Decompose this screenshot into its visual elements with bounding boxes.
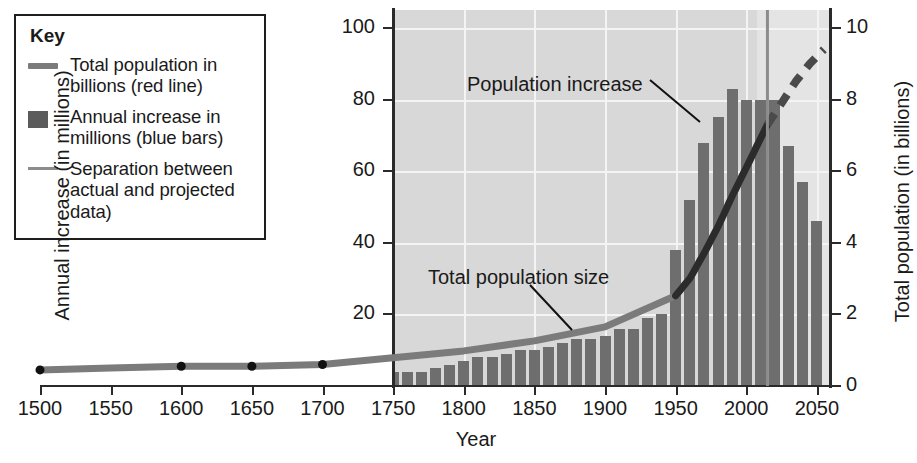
left-axis-tick <box>383 27 392 29</box>
x-axis-tick <box>393 386 395 395</box>
left-axis-tick <box>383 313 392 315</box>
left-axis-tick-label: 100 <box>305 15 375 38</box>
x-axis-tick <box>252 386 254 395</box>
x-axis-tick <box>817 386 819 395</box>
left-axis-tick-label: 20 <box>305 301 375 324</box>
bar <box>557 343 568 386</box>
x-axis-tick-label: 1750 <box>358 397 428 420</box>
x-axis-tick-label: 2000 <box>711 397 781 420</box>
right-axis-tick-label: 10 <box>846 15 906 38</box>
bar <box>600 336 611 386</box>
data-point-marker <box>36 365 45 374</box>
legend-item-label: Annual increase in millions (blue bars) <box>70 106 254 149</box>
x-axis-tick-label: 1550 <box>76 397 146 420</box>
x-axis-tick-label: 1850 <box>499 397 569 420</box>
x-axis-tick <box>534 386 536 395</box>
bar <box>741 100 752 386</box>
gridline-vertical <box>605 10 607 386</box>
bar <box>571 339 582 386</box>
x-axis-tick-label: 1700 <box>288 397 358 420</box>
right-axis-tick <box>832 242 841 244</box>
bar <box>769 100 780 386</box>
x-axis-tick <box>464 386 466 395</box>
x-axis-tick-label: 1950 <box>641 397 711 420</box>
left-axis-title: Annual increase (in millions) <box>51 46 74 346</box>
left-axis-tick-label: 40 <box>305 230 375 253</box>
bar <box>402 372 413 386</box>
bar <box>515 350 526 386</box>
data-point-marker <box>318 360 327 369</box>
bar <box>501 354 512 386</box>
bar <box>783 146 794 386</box>
bottom-axis-line <box>40 385 831 387</box>
x-axis-tick <box>111 386 113 395</box>
x-axis-tick <box>676 386 678 395</box>
bar <box>444 365 455 386</box>
bar <box>585 339 596 386</box>
data-point-marker <box>177 362 186 371</box>
bar <box>430 368 441 386</box>
bar <box>656 314 667 386</box>
bar <box>811 221 822 386</box>
bar <box>487 357 498 386</box>
left-axis-tick <box>383 170 392 172</box>
bar <box>642 318 653 386</box>
right-axis-tick <box>832 170 841 172</box>
right-axis-tick <box>832 313 841 315</box>
bar <box>684 200 695 386</box>
x-axis-tick-label: 2050 <box>782 397 852 420</box>
legend-item-label: Total population in billions (red line) <box>70 54 254 97</box>
bar <box>472 357 483 386</box>
bar <box>755 100 766 386</box>
gridline-vertical <box>464 10 466 386</box>
bar <box>797 182 808 386</box>
left-axis-tick-label: 80 <box>305 87 375 110</box>
bar <box>529 350 540 386</box>
annotation-total-population-size: Total population size <box>428 266 609 289</box>
legend-item-label: Separation between actual and projected … <box>70 158 254 222</box>
x-axis-tick <box>746 386 748 395</box>
gridline-vertical <box>534 10 536 386</box>
x-axis-tick <box>605 386 607 395</box>
data-point-markers <box>36 360 328 374</box>
bar <box>713 117 724 386</box>
gridline-horizontal <box>395 28 830 30</box>
right-axis-tick <box>832 99 841 101</box>
chart-figure: Key Total population in billions (red li… <box>0 0 917 463</box>
x-axis-tick <box>323 386 325 395</box>
left-axis-line <box>392 8 395 388</box>
bar <box>395 372 399 386</box>
right-axis-tick <box>832 385 841 387</box>
data-point-marker <box>247 362 256 371</box>
bar <box>670 250 681 386</box>
bar <box>727 89 738 386</box>
x-axis-tick-label: 1800 <box>429 397 499 420</box>
left-axis-tick-label: 60 <box>305 158 375 181</box>
legend-title: Key <box>30 26 254 47</box>
x-axis-tick <box>40 386 42 395</box>
x-axis-tick-label: 1650 <box>217 397 287 420</box>
bar <box>416 372 427 386</box>
x-axis-tick <box>181 386 183 395</box>
bar <box>698 143 709 387</box>
bar <box>614 329 625 386</box>
left-axis-tick <box>383 99 392 101</box>
right-axis-title: Total population (in billions) <box>891 37 914 367</box>
x-axis-tick-label: 1600 <box>146 397 216 420</box>
annotation-population-increase: Population increase <box>467 73 643 96</box>
right-axis-line <box>829 8 832 388</box>
right-axis-tick <box>832 27 841 29</box>
x-axis-title: Year <box>0 428 917 451</box>
right-axis-tick-label: 0 <box>846 373 906 396</box>
x-axis-tick-label: 1900 <box>570 397 640 420</box>
left-axis-tick <box>383 242 392 244</box>
x-axis-tick-label: 1500 <box>5 397 75 420</box>
bar <box>543 347 554 386</box>
bar <box>458 361 469 386</box>
plot-area <box>395 10 830 386</box>
bar <box>628 329 639 386</box>
